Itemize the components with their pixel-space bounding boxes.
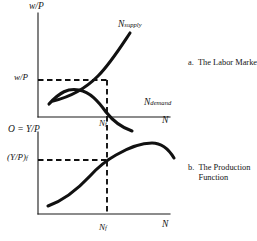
panel-b-y-tick-base: (Y/P) (7, 152, 26, 162)
panel-b-x-tick-subscript: f (105, 224, 107, 231)
panel-a-caption-text: The Labor Market (198, 58, 256, 68)
panel-b-caption-line2: Function (198, 173, 228, 182)
production-function-curve (48, 143, 174, 206)
panel-b-y-tick-subscript: f (26, 154, 28, 161)
labor-demand-curve (49, 90, 132, 131)
panel-a-x-tick-label: Nf (99, 118, 107, 129)
panel-a-caption-letter: a. (188, 58, 194, 67)
figure-root: w/P Nsupply Ndemand w/P Nf N a. The Labo… (0, 0, 257, 241)
figure-canvas (0, 0, 257, 241)
panel-b-caption-letter: b. (188, 163, 194, 172)
panel-a-y-axis-label: w/P (29, 1, 44, 12)
labor-supply-curve-label: Nsupply (118, 19, 142, 30)
panel-b-y-axis-label: O = Y/P (8, 124, 40, 135)
labor-supply-label-subscript: supply (124, 21, 141, 28)
panel-a-y-tick-label: w/P (14, 72, 28, 83)
panel-b-y-tick-label: (Y/P)f (7, 152, 28, 163)
panel-b-x-axis-label: N (162, 219, 168, 230)
labor-demand-label-subscript: demand (150, 99, 171, 106)
labor-demand-curve-label: Ndemand (144, 97, 171, 108)
panel-b-x-tick-label: Nf (99, 222, 107, 233)
panel-b-caption-line1: The Production (198, 163, 250, 172)
panel-a-x-axis-label: N (162, 115, 168, 126)
panel-b-caption: b. The ProductionFunction (188, 163, 250, 183)
panel-a-caption: a. The Labor Market (188, 58, 256, 68)
panel-a-x-tick-subscript: f (105, 120, 107, 127)
